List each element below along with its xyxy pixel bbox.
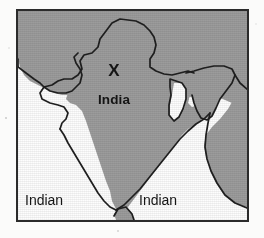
page-background: X India Indian Ocean Indian Ocean [0, 0, 264, 238]
map-frame: X India Indian Ocean Indian Ocean [16, 9, 249, 222]
map-graphic [18, 11, 247, 220]
